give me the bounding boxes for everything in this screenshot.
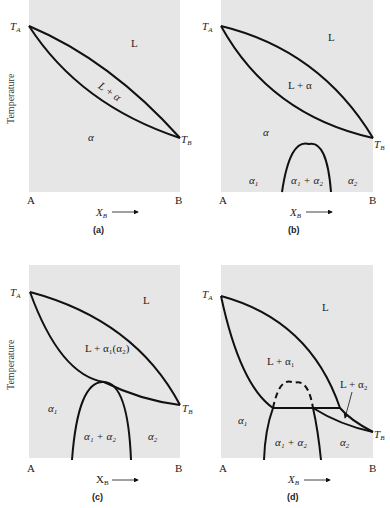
tb-label: TB [182,402,193,416]
panel-caption: (d) [287,492,299,502]
tb-label: TB [181,133,192,147]
y-axis-label: Temperature [5,73,16,124]
panel-d: TA TB L L + α₁ L + α₂ α1 α₁ + α₂ α2 A B … [202,265,385,502]
region-liquid: L [322,301,329,313]
x-axis-label: XB [287,473,300,487]
y-axis-label: Temperature [5,339,16,390]
x-right-label: B [369,462,376,474]
x-axis-label: XB [95,206,108,220]
region-liquid: L [328,31,335,43]
x-left-label: A [219,194,227,206]
ta-label: TA [10,20,21,34]
panel-caption: (b) [288,225,300,235]
x-left-label: A [27,462,35,474]
panel-c: Temperature TA TB L L + α₁(α₂) α1 α₁ + α… [5,265,193,502]
region-liquid: L [143,294,150,306]
panel-a-background [29,0,180,192]
x-axis-label: XB [289,206,302,220]
region-two-phase: L + α [288,79,312,91]
ta-label: TA [202,288,213,302]
region-two-phase-alpha1: L + α₁ [267,355,295,367]
region-solid: α [263,126,269,138]
x-right-label: B [369,194,376,206]
x-right-label: B [175,462,182,474]
region-two-phase: L + α₁(α₂) [85,342,130,355]
region-solid: α [88,131,94,143]
x-right-label: B [175,194,182,206]
region-two-phase-alpha2: L + α₂ [340,378,368,390]
x-left-label: A [27,194,35,206]
panel-caption: (c) [92,492,103,502]
ta-label: TA [10,286,21,300]
tb-label: TB [374,428,385,442]
region-miscibility-gap: α₁ + α₂ [291,174,323,186]
tb-label: TB [374,138,385,152]
region-miscibility-gap: α₁ + α₂ [84,430,116,442]
panel-b: TA TB L L + α α α1 α₁ + α₂ α2 A B XB (b) [202,0,385,235]
x-left-label: A [219,462,227,474]
panel-a: Temperature TA TB L L + α α A B XB (a) [5,0,192,235]
panel-caption: (a) [93,225,104,235]
phase-diagram-figure: Temperature TA TB L L + α α A B XB (a) T… [0,0,390,508]
ta-label: TA [202,20,213,34]
region-miscibility-gap: α₁ + α₂ [275,436,307,448]
panel-d-background [221,265,373,458]
x-axis-label: XB [96,473,109,487]
panel-b-background [221,0,373,192]
region-liquid: L [131,37,138,49]
